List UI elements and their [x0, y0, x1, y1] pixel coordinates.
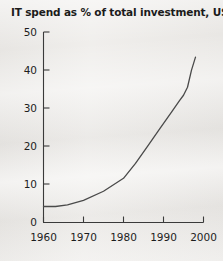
x-tick-label-1970: 1970 [70, 231, 97, 243]
y-tick-label-10: 10 [24, 178, 37, 190]
chart-plot-area: 50 40 30 20 10 0 1960 1970 1980 1990 200… [0, 0, 223, 261]
y-tick-label-40: 40 [24, 64, 37, 76]
x-tick-label-1990: 1990 [150, 231, 177, 243]
x-tick-label-1960: 1960 [30, 231, 57, 243]
y-tick-label-50: 50 [24, 26, 37, 38]
y-tick-label-30: 30 [24, 102, 37, 114]
chart-figure: IT spend as % of total investment, US 50… [0, 0, 223, 261]
x-tick-label-1980: 1980 [110, 231, 137, 243]
y-tick-marks [44, 32, 50, 184]
y-tick-label-0: 0 [30, 216, 37, 228]
x-tick-marks [44, 217, 204, 223]
y-tick-label-20: 20 [24, 140, 37, 152]
x-tick-label-2000: 2000 [190, 231, 217, 243]
data-series-line [44, 57, 196, 206]
